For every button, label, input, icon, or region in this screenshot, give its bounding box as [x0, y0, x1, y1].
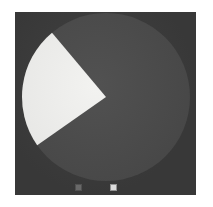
axis-marker-right[interactable] — [110, 184, 117, 191]
figure-canvas — [0, 0, 213, 207]
axis-marker-left[interactable] — [75, 184, 82, 191]
pie-chart-panel — [15, 12, 196, 195]
pie-chart-svg — [15, 12, 196, 195]
